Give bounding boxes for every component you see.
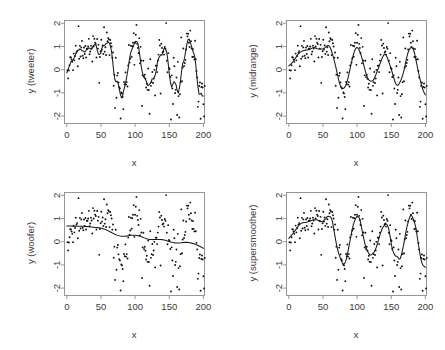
scatter-point: [400, 267, 402, 269]
scatter-point: [363, 277, 365, 279]
scatter-point: [100, 222, 102, 224]
scatter-point: [138, 224, 140, 226]
y-tick-labels-midrange: 2 1 0 -1 -2: [273, 21, 284, 121]
scatter-point: [423, 255, 425, 257]
svg-text:200: 200: [195, 129, 211, 140]
scatter-point: [338, 269, 340, 271]
panel-supersmoother-svg: 2 1 0 -1 -2 0 50 100 150 200 y (supersmo…: [222, 175, 444, 350]
scatter-point: [118, 253, 120, 255]
svg-text:2: 2: [273, 21, 284, 26]
scatter-point: [96, 229, 98, 231]
scatter-point: [289, 77, 291, 79]
scatter-point: [182, 239, 184, 241]
scatter-point: [133, 64, 135, 66]
scatter-point: [148, 89, 150, 91]
scatter-point: [397, 89, 399, 91]
scatter-point: [158, 211, 160, 213]
x-axis-ticks-midrange: [289, 124, 426, 128]
scatter-point: [173, 229, 175, 231]
scatter-point: [392, 291, 394, 293]
scatter-point: [344, 280, 346, 282]
svg-text:100: 100: [349, 301, 365, 312]
svg-text:0: 0: [64, 301, 69, 312]
scatter-point: [406, 231, 408, 233]
scatter-point: [339, 72, 341, 74]
scatter-point: [204, 257, 206, 259]
scatter-point: [68, 242, 70, 244]
scatter-point: [304, 57, 306, 59]
scatter-point: [102, 225, 104, 227]
scatter-point: [69, 236, 71, 238]
scatter-point: [372, 257, 374, 259]
scatter-point: [143, 248, 145, 250]
scatter-point: [197, 106, 199, 108]
scatter-point: [380, 39, 382, 41]
scatter-point: [109, 39, 111, 41]
svg-text:150: 150: [383, 129, 399, 140]
scatter-points-supersmoother: [289, 194, 428, 292]
scatter-point: [123, 253, 125, 255]
scatter-point: [159, 45, 161, 47]
svg-text:-1: -1: [273, 261, 284, 269]
scatter-point: [185, 221, 187, 223]
svg-text:50: 50: [96, 129, 107, 140]
scatter-point: [132, 214, 134, 216]
scatter-point: [194, 40, 196, 42]
scatter-point: [195, 230, 197, 232]
svg-text:-2: -2: [51, 284, 62, 292]
scatter-point: [114, 279, 116, 281]
scatter-point: [399, 233, 401, 235]
scatter-point: [141, 105, 143, 107]
scatter-point: [424, 87, 426, 89]
scatter-point: [300, 230, 302, 232]
scatter-point: [416, 212, 418, 214]
scatter-point: [201, 255, 203, 257]
scatter-point: [120, 290, 122, 292]
scatter-point: [137, 219, 139, 221]
scatter-point: [142, 232, 144, 234]
scatter-point: [70, 228, 72, 230]
scatter-point: [317, 215, 319, 217]
scatter-point: [358, 43, 360, 45]
scatter-point: [199, 254, 201, 256]
scatter-point: [198, 273, 200, 275]
scatter-point: [177, 233, 179, 235]
scatter-point: [163, 54, 165, 56]
y-axis-title-supersmoother: y (supersmoother): [247, 204, 258, 281]
scatter-point: [124, 243, 126, 245]
scatter-point: [146, 255, 148, 257]
scatter-point: [116, 269, 118, 271]
scatter-point: [389, 243, 391, 245]
scatter-point: [328, 204, 330, 206]
scatter-point: [324, 225, 326, 227]
scatter-point: [326, 218, 328, 220]
scatter-point: [331, 39, 333, 41]
scatter-point: [395, 229, 397, 231]
scatter-point: [373, 243, 375, 245]
scatter-point: [184, 59, 186, 61]
scatter-point: [111, 218, 113, 220]
scatter-point: [187, 205, 189, 207]
scatter-point: [96, 57, 98, 59]
scatter-point: [183, 65, 185, 67]
scatter-point: [306, 45, 308, 47]
scatter-point: [409, 33, 411, 35]
scatter-point: [144, 250, 146, 252]
scatter-point: [350, 216, 352, 218]
scatter-point: [325, 198, 327, 200]
scatter-point: [398, 114, 400, 116]
scatter-point: [304, 227, 306, 229]
scatter-point: [294, 69, 296, 71]
scatter-point: [183, 237, 185, 239]
scatter-point: [172, 103, 174, 105]
scatter-point: [302, 218, 304, 220]
scatter-point: [85, 229, 87, 231]
scatter-point: [384, 50, 386, 52]
scatter-point: [156, 243, 158, 245]
scatter-point: [103, 26, 105, 28]
scatter-point: [77, 65, 79, 67]
y-axis-ticks-midrange: [283, 23, 287, 116]
scatter-point: [345, 253, 347, 255]
scatter-point: [312, 45, 314, 47]
scatter-point: [346, 71, 348, 73]
